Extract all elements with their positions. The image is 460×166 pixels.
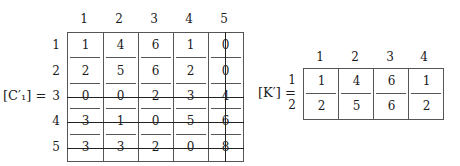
row-3-strike-line <box>67 97 244 98</box>
matrix-k-cell: 1 <box>304 74 339 88</box>
matrix-k-cell: 6 <box>374 99 409 113</box>
row-4-strike-line <box>67 122 244 123</box>
matrix-c-label: [C′₁] = <box>3 88 46 104</box>
matrix-c-row-header: 1 <box>46 38 66 52</box>
matrix-c-cell: 1 <box>68 38 103 52</box>
matrix-c-row-header: 5 <box>46 140 66 154</box>
matrix-k-cell: 1 <box>409 74 444 88</box>
matrix-k-cell: 6 <box>374 74 409 88</box>
matrix-c-cell: 5 <box>103 64 138 78</box>
matrix-c-cell: 0 <box>68 89 103 103</box>
matrix-k-cell: 5 <box>339 99 374 113</box>
row-5-strike-line <box>67 148 244 149</box>
matrix-k-row-header: 1 <box>282 73 302 87</box>
matrix-k-col-header: 3 <box>380 50 400 64</box>
matrix-c-cell: 5 <box>173 114 208 128</box>
matrix-c-row-header: 3 <box>46 89 66 103</box>
matrix-c-row-header: 4 <box>46 114 66 128</box>
matrix-k-col-header: 1 <box>310 50 330 64</box>
matrix-c-cell: 3 <box>68 114 103 128</box>
matrix-c-cell: 2 <box>173 64 208 78</box>
column-5-strike-line <box>225 32 226 162</box>
matrix-c-cell: 0 <box>173 140 208 154</box>
matrix-c-cell: 4 <box>103 38 138 52</box>
matrix-k-row-header: 2 <box>282 98 302 112</box>
matrix-c-cell: 1 <box>173 38 208 52</box>
matrix-c-col-header: 3 <box>144 12 164 26</box>
matrix-c-row-header: 2 <box>46 64 66 78</box>
matrix-c-cell: 3 <box>173 89 208 103</box>
matrix-c-cell: 2 <box>138 89 173 103</box>
matrix-c-cell: 0 <box>103 89 138 103</box>
matrix-c-cell: 2 <box>138 140 173 154</box>
matrix-c-cell: 0 <box>138 114 173 128</box>
matrix-k-cell: 2 <box>304 99 339 113</box>
matrix-c-cell: 3 <box>103 140 138 154</box>
matrix-k-col-header: 2 <box>345 50 365 64</box>
matrix-c-cell: 1 <box>103 114 138 128</box>
matrix-c-cell: 6 <box>138 64 173 78</box>
matrix-c-cell: 2 <box>68 64 103 78</box>
matrix-c-cell: 3 <box>68 140 103 154</box>
matrix-c-col-header: 4 <box>179 12 199 26</box>
matrix-k-cell: 4 <box>339 74 374 88</box>
matrix-k-cell: 2 <box>409 99 444 113</box>
matrix-c-cell: 6 <box>138 38 173 52</box>
matrix-c-col-header: 5 <box>214 12 234 26</box>
matrix-c-col-header: 1 <box>74 12 94 26</box>
matrix-k-col-header: 4 <box>414 50 434 64</box>
matrix-c-col-header: 2 <box>109 12 129 26</box>
